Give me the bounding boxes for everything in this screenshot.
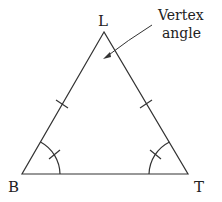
isosceles-triangle-diagram: L B T Vertex angle (0, 0, 222, 202)
side-tick-right (140, 100, 152, 108)
vertex-label-b: B (8, 178, 19, 196)
angle-tick-b (49, 150, 60, 159)
arrowhead-icon (103, 52, 111, 59)
triangle (22, 32, 188, 174)
angle-tick-t (150, 150, 161, 159)
annotation-line2: angle (162, 25, 201, 41)
vertex-angle-arrow (106, 25, 152, 57)
side-tick-left (56, 100, 68, 108)
annotation-line1: Vertex (157, 7, 204, 23)
vertex-label-l: L (98, 12, 108, 30)
vertex-label-t: T (194, 178, 204, 196)
